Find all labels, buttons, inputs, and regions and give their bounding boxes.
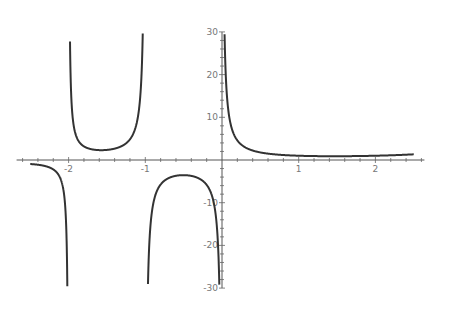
axes <box>17 32 425 288</box>
y-tick-label: -10 <box>203 198 218 208</box>
y-tick-label: 10 <box>207 112 219 122</box>
curve-branch-3 <box>225 34 414 156</box>
y-tick-label: -30 <box>203 283 218 293</box>
x-tick-label: 2 <box>373 164 379 174</box>
x-tick-label: 1 <box>296 164 302 174</box>
y-tick-label: 20 <box>207 70 219 80</box>
y-tick-label: 30 <box>207 27 219 37</box>
y-tick-label: -20 <box>203 240 218 250</box>
x-tick-label: -2 <box>64 164 73 174</box>
curve-branch-2 <box>148 175 219 284</box>
x-tick-label: -1 <box>141 164 150 174</box>
curve-branch-0 <box>30 164 67 286</box>
curve-branch-1 <box>70 34 143 151</box>
gamma-function-plot: -2-112-30-20-10102030 <box>0 0 457 310</box>
